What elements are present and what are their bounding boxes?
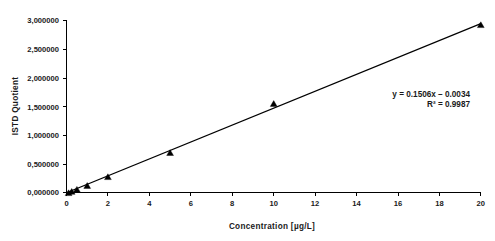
x-tick-label: 20 [477, 199, 485, 208]
x-tick-label: 8 [230, 199, 234, 208]
y-tick-label: 0,500000 [27, 160, 59, 169]
y-tick-label: 3,000000 [27, 16, 59, 25]
x-tick-label: 10 [269, 199, 277, 208]
y-tick-label: 1,500000 [27, 103, 59, 112]
regression-equation-text: y = 0.1506x – 0.0034 [392, 90, 470, 99]
x-tick-label: 16 [394, 199, 402, 208]
y-axis-title: ISTD Quotient [11, 77, 20, 135]
x-tick-label: 2 [106, 199, 110, 208]
y-tick-label: 2,500000 [27, 45, 59, 54]
y-tick-label: 0,000000 [27, 188, 59, 197]
x-tick-label: 14 [352, 199, 361, 208]
calibration-curve-chart: 3,000000 2,500000 2,000000 1,500000 1,00… [0, 0, 495, 241]
x-axis-title: Concentration [µg/L] [229, 222, 315, 231]
x-tick-label: 12 [311, 199, 319, 208]
chart-background [0, 0, 495, 241]
x-tick-label: 0 [64, 199, 68, 208]
x-tick-label: 6 [189, 199, 193, 208]
y-tick-label: 1,000000 [27, 131, 59, 140]
r-squared-text: R² = 0.9987 [427, 100, 470, 109]
chart-svg: 3,000000 2,500000 2,000000 1,500000 1,00… [0, 0, 495, 241]
x-tick-label: 18 [435, 199, 443, 208]
y-tick-label: 2,000000 [27, 74, 59, 83]
